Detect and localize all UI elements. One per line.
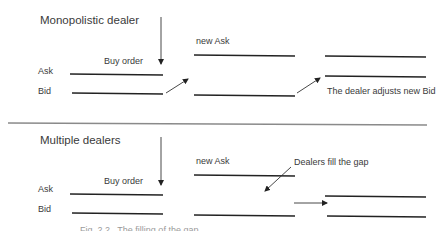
buy-order-label: Buy order	[104, 176, 143, 186]
panel-title: Multiple dealers	[40, 134, 121, 146]
bid-line-step3	[327, 216, 426, 217]
new-ask-line-step3	[325, 56, 426, 57]
panel-monopolistic: Monopolistic dealer Ask Bid Buy order ne…	[38, 14, 436, 96]
annotation-text: Dealers fill the gap	[294, 157, 369, 167]
new-ask-label: new Ask	[196, 36, 230, 46]
caption-text: Fig. 2.2 The filling of the gap	[80, 225, 198, 231]
panel-divider	[8, 123, 427, 125]
new-ask-line-step3	[325, 196, 426, 197]
step-arrow	[297, 78, 320, 93]
panel-multiple: Multiple dealers Ask Bid Buy order new A…	[38, 134, 426, 217]
new-ask-label: new Ask	[196, 156, 230, 166]
bid-line	[72, 213, 163, 214]
panel-title: Monopolistic dealer	[40, 14, 139, 26]
buy-order-label: Buy order	[104, 56, 143, 66]
figure-caption: Fig. 2.2 The filling of the gap	[80, 225, 198, 231]
bid-line-step2	[194, 215, 295, 216]
new-bid-line	[325, 76, 426, 77]
ask-line	[70, 74, 163, 75]
ask-label: Ask	[38, 184, 54, 194]
annotation-text: The dealer adjusts new Bid	[327, 86, 436, 96]
bid-line-step2	[194, 95, 295, 96]
dealer-diagram: Monopolistic dealer Ask Bid Buy order ne…	[0, 0, 439, 231]
new-ask-line	[194, 55, 295, 56]
annotation-arrow	[265, 167, 291, 191]
new-ask-line	[194, 175, 295, 176]
bid-label: Bid	[38, 86, 51, 96]
bid-label: Bid	[38, 204, 51, 214]
step-arrow	[166, 79, 188, 93]
bid-line	[72, 93, 163, 94]
ask-label: Ask	[38, 66, 54, 76]
ask-line	[70, 194, 163, 195]
